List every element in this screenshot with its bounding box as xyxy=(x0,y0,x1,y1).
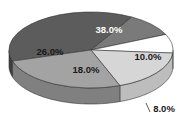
pie-chart: 38.0% 10.0% 8.0% 18.0% 26.0% xyxy=(0,0,187,129)
label-38: 38.0% xyxy=(96,24,123,35)
label-10: 10.0% xyxy=(135,51,162,62)
leader-line-8 xyxy=(146,103,150,112)
label-18: 18.0% xyxy=(73,64,100,75)
label-26: 26.0% xyxy=(37,46,64,57)
pie-slices xyxy=(9,12,173,88)
label-8: 8.0% xyxy=(153,103,175,114)
